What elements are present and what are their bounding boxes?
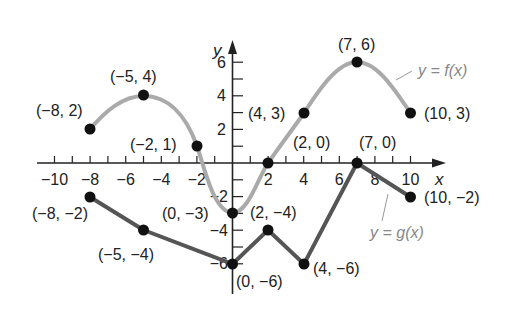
x-tick-label: −4 [152, 171, 170, 188]
f-point [227, 208, 238, 219]
f-point [299, 108, 310, 119]
g-point [138, 225, 149, 236]
x-tick-label: 10 [402, 171, 420, 188]
point-label: (0, −3) [162, 205, 209, 222]
g-point [227, 259, 238, 270]
g-function-label: y = g(x) [369, 224, 424, 241]
point-label: (7, 6) [338, 36, 375, 53]
point-label: (−5, 4) [110, 68, 157, 85]
x-tick-label: −10 [41, 171, 68, 188]
f-point [85, 124, 96, 135]
point-label: (−8, −2) [32, 205, 88, 222]
point-label: (7, 0) [359, 134, 396, 151]
y-tick-label: 2 [217, 121, 226, 138]
y-axis-label: y [212, 41, 223, 60]
g-point [85, 192, 96, 203]
x-tick-label: 4 [299, 171, 308, 188]
f-point [405, 108, 416, 119]
g-point [405, 192, 416, 203]
f-annotation: y = f(x) [396, 62, 467, 80]
x-axis: −10 −8 −6 −4 −2 2 4 6 8 10 x [37, 156, 446, 189]
f-point [263, 158, 274, 169]
point-label: (2, −4) [250, 204, 297, 221]
y-axis-arrow-icon [228, 40, 237, 54]
point-label: (−2, 1) [130, 136, 177, 153]
y-tick-label: −4 [210, 222, 228, 239]
point-label: (10, −2) [424, 189, 480, 206]
f-function-label: y = f(x) [417, 62, 467, 79]
x-tick-label: 2 [264, 171, 273, 188]
x-tick-label: 6 [335, 171, 344, 188]
point-label: (4, 3) [248, 105, 285, 122]
g-point-labels: (−8, −2) (−5, −4) (0, −6) (2, −4) (4, −6… [32, 134, 480, 290]
x-axis-label: x [434, 170, 444, 189]
point-label: (2, 0) [293, 134, 330, 151]
g-point [263, 225, 274, 236]
y-tick-label: 4 [217, 87, 226, 104]
x-tick-labels: −10 −8 −6 −4 −2 2 4 6 8 10 [41, 171, 420, 188]
point-label: (−8, 2) [36, 102, 83, 119]
g-point [352, 158, 363, 169]
x-tick-label: −8 [81, 171, 99, 188]
point-label: (−5, −4) [98, 246, 154, 263]
f-point [352, 57, 363, 68]
g-point [299, 259, 310, 270]
x-tick-label: −2 [188, 171, 206, 188]
x-axis-arrow-icon [432, 159, 446, 168]
x-tick-label: −6 [117, 171, 135, 188]
function-graph: −10 −8 −6 −4 −2 2 4 6 8 10 x [0, 0, 513, 316]
point-label: (10, 3) [424, 105, 470, 122]
f-point [138, 90, 149, 101]
point-label: (4, −6) [313, 260, 360, 277]
point-label: (0, −6) [236, 273, 283, 290]
f-point [192, 141, 203, 152]
g-annotation: y = g(x) [369, 194, 424, 241]
